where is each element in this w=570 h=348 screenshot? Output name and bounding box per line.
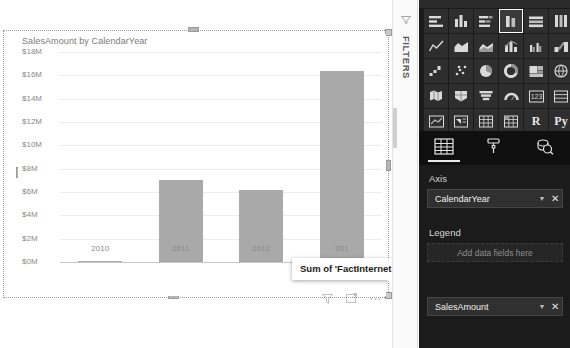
field-chip-name: CalendarYear [428,194,536,204]
viz-type-python-visual[interactable]: Py [549,109,570,133]
more-options-icon[interactable] [369,291,382,304]
viz-type-label: Py [554,114,567,129]
filters-pane-collapsed[interactable]: FILTERS [392,0,418,348]
viz-type-100-stacked-column-chart[interactable] [549,9,570,33]
filters-pane-label: FILTERS [401,25,412,91]
viz-type-pie-chart[interactable] [474,59,498,83]
pane-tab-strip[interactable] [419,131,570,165]
viz-type-r-script-visual[interactable]: R [524,109,548,133]
x-axis-tick-label: 2010 [78,244,122,253]
format-tab[interactable] [469,131,519,165]
y-axis-tick-label: $2M [22,234,58,243]
viz-type-100-stacked-bar-chart[interactable] [524,9,548,33]
y-axis-tick-label: $6M [22,187,58,196]
viz-type-stacked-bar-chart[interactable] [424,9,448,33]
field-chip-name: SalesAmount [428,302,536,312]
y-axis-tick-label: $14M [22,94,58,103]
x-axis-tick-label: 2011 [159,244,203,253]
viz-type-shape-map[interactable] [449,84,473,108]
bar-series[interactable]: 201020112012201 [60,52,382,262]
viz-type-line-and-stacked-column-chart[interactable] [499,34,523,58]
viz-type-stacked-column-chart[interactable] [449,9,473,33]
viz-type-area-chart[interactable] [449,34,473,58]
resize-handle-top[interactable] [188,27,199,32]
remove-field-icon[interactable]: ✕ [548,193,562,204]
viz-type-table[interactable] [474,109,498,133]
magnifier-icon [535,137,554,159]
viz-type-line-chart[interactable] [424,34,448,58]
visualizations-pane-header [419,0,570,8]
resize-handle-bottom-right[interactable] [385,292,392,299]
viz-type-map[interactable] [549,59,570,83]
field-drop-placeholder[interactable]: Add data fields here [427,243,563,262]
data-point-tooltip: Sum of 'FactInternetSales'[SalesAmount] [292,258,392,280]
table-icon [434,138,454,159]
viz-type-clustered-column-chart[interactable] [499,9,523,33]
focus-mode-icon[interactable] [345,291,358,304]
viz-type-gauge-chart[interactable] [499,84,523,108]
well-label-legend: Legend [429,227,461,238]
viz-type-clustered-bar-chart[interactable] [474,9,498,33]
viz-type-slicer[interactable] [449,109,473,133]
report-canvas[interactable]: SalesAmount by CalendarYear $18M$16M$14M… [0,0,392,348]
paint-roller-icon [485,137,503,159]
chart-plot-area[interactable]: $18M$16M$14M$12M$10M$8M$6M$4M$2M$0M 2010… [22,52,382,280]
power-bi-report-view: SalesAmount by CalendarYear $18M$16M$14M… [0,0,570,348]
filter-icon[interactable] [321,291,334,304]
viz-type-multi-row-card[interactable] [549,84,570,108]
y-axis-tick-label: $18M [22,47,58,56]
resize-handle-right[interactable] [386,160,391,171]
field-wells[interactable]: AxisCalendarYear▼✕LegendAdd data fields … [419,165,570,348]
bar-column[interactable]: 2012 [239,52,283,262]
visualizations-pane[interactable]: 123RPy ... [419,0,570,348]
visual-footer-toolbar[interactable] [321,291,382,304]
bar[interactable] [78,261,122,262]
viz-type-stacked-area-chart[interactable] [474,34,498,58]
y-axis-tick-label: $16M [22,70,58,79]
remove-field-icon[interactable]: ✕ [548,301,562,312]
x-axis-tick-label: 2012 [239,244,283,253]
resize-handle-top-right[interactable] [385,29,392,36]
x-axis-tick-label: 201 [320,244,364,253]
chevron-down-icon[interactable]: ▼ [536,303,548,310]
column-chart-visual[interactable]: SalesAmount by CalendarYear $18M$16M$14M… [18,34,386,296]
canvas-scrollbar[interactable] [393,108,397,148]
y-axis-tick-label: $4M [22,210,58,219]
fields-tab[interactable] [419,131,469,165]
viz-type-card[interactable]: 123 [524,84,548,108]
viz-type-ribbon-chart[interactable] [549,34,570,58]
viz-type-line-and-clustered-column-chart[interactable] [524,34,548,58]
more-visuals-button[interactable]: ... [428,112,443,124]
chevron-down-icon[interactable]: ▼ [536,195,548,202]
visualization-type-gallery[interactable]: 123RPy [424,9,570,133]
field-chip-salesamount[interactable]: SalesAmount▼✕ [427,297,563,316]
viz-type-donut-chart[interactable] [499,59,523,83]
viz-type-waterfall-chart[interactable] [424,59,448,83]
y-axis-tick-label: $12M [22,117,58,126]
well-label-axis: Axis [429,173,447,184]
y-axis-tick-label: $0M [22,257,58,266]
bar-column[interactable]: 2010 [78,52,122,262]
y-axis-tick-label: $8M [22,164,58,173]
bar[interactable] [320,71,364,262]
viz-type-label: R [532,114,541,129]
viz-type-funnel-chart[interactable] [474,84,498,108]
y-axis-tick-label: $10M [22,140,58,149]
viz-type-filled-map[interactable] [424,84,448,108]
viz-type-matrix[interactable] [499,109,523,133]
bar-column[interactable]: 201 [320,52,364,262]
bar-column[interactable]: 2011 [159,52,203,262]
visual-title: SalesAmount by CalendarYear [22,36,147,46]
svg-text:123: 123 [530,93,542,100]
analytics-tab[interactable] [520,131,570,165]
viz-type-treemap[interactable] [524,59,548,83]
viz-type-scatter-chart[interactable] [449,59,473,83]
field-chip-calendaryear[interactable]: CalendarYear▼✕ [427,189,563,208]
